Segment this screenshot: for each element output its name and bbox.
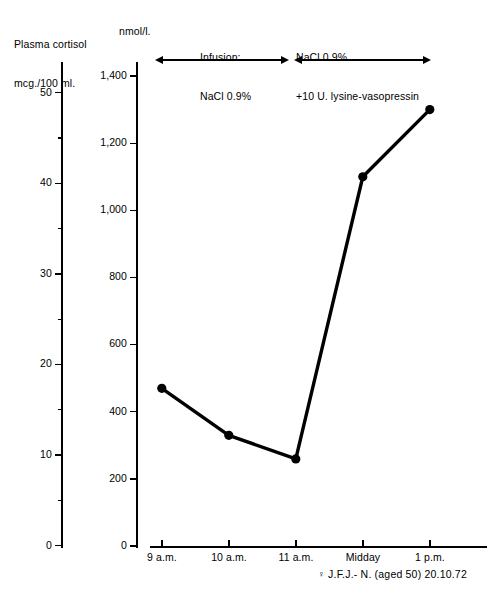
chart-figure: Plasma cortisol mcg./100 ml. nmol/l. Inf… (0, 0, 490, 591)
data-point-1-p-m- (425, 105, 434, 114)
data-point-10-a-m- (224, 431, 233, 440)
data-point-11-a-m- (291, 454, 300, 463)
series-markers-plasma-cortisol (157, 105, 434, 463)
female-symbol-icon: ♀ (318, 569, 325, 579)
data-point-midday (358, 172, 367, 181)
figure-caption: ♀ J.F.J.- N. (aged 50) 20.10.72 (318, 568, 467, 580)
data-point-9-a-m- (157, 384, 166, 393)
series-line-plasma-cortisol (162, 110, 430, 459)
figure-caption-text: J.F.J.- N. (aged 50) 20.10.72 (328, 568, 467, 580)
plot-area (0, 0, 490, 591)
